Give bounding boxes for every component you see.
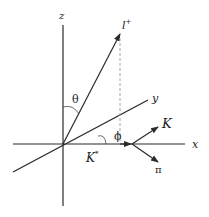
phi-arc (98, 136, 106, 144)
z-axis-label: z (58, 10, 65, 21)
pion-label: π (155, 164, 162, 175)
lepton-vector-arrow (63, 34, 120, 144)
theta-label: θ (72, 93, 79, 106)
decay-angle-diagram: z x y l+ θ ϕ K* K π (0, 0, 209, 217)
kaon-arrow (132, 127, 158, 144)
theta-arc (63, 106, 79, 114)
phi-label: ϕ (114, 130, 122, 143)
kaon-label: K (161, 116, 173, 131)
pion-arrow (132, 144, 158, 162)
kstar-label: K* (85, 150, 99, 165)
x-axis-label: x (192, 138, 199, 151)
y-axis-label: y (151, 92, 159, 105)
lepton-label: l+ (122, 18, 132, 32)
